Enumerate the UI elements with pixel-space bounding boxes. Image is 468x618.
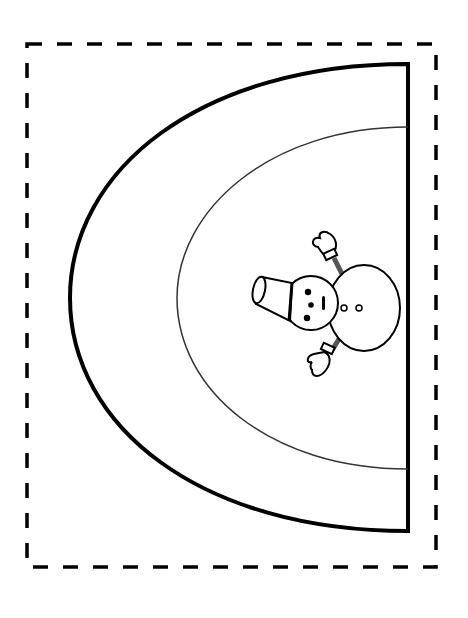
eye-bottom bbox=[304, 315, 310, 321]
snowman-body bbox=[328, 265, 400, 351]
nose bbox=[308, 302, 314, 308]
eye-top bbox=[305, 289, 311, 295]
button-1 bbox=[341, 305, 347, 311]
button-2 bbox=[356, 305, 362, 311]
mouth bbox=[322, 296, 325, 310]
cutout-template bbox=[0, 0, 468, 618]
